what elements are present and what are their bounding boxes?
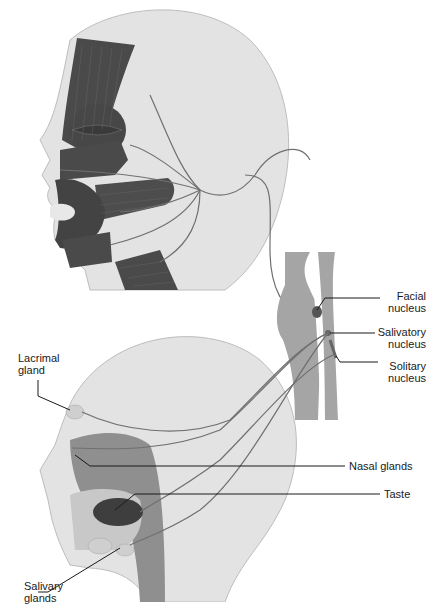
label-salivary-glands: Salivary glands [24,580,63,604]
tongue-taste-area [93,498,143,526]
label-line: nucleus [372,302,426,314]
label-lacrimal-gland: Lacrimal gland [18,352,60,376]
label-line: gland [18,364,60,376]
lower-head-sensory [40,333,333,602]
label-line: Salivary [24,580,63,592]
label-line: Facial [372,290,426,302]
label-taste: Taste [384,488,410,500]
submandibular-gland [88,538,112,554]
label-nasal-glands: Nasal glands [349,460,413,472]
label-line: Lacrimal [18,352,60,364]
label-line: Salivatory [360,326,426,338]
label-line: Solitary [370,360,426,372]
label-line: glands [24,592,63,604]
sublingual-gland [116,544,134,556]
label-salivatory-nucleus: Salivatory nucleus [360,326,426,350]
label-solitary-nucleus: Solitary nucleus [370,360,426,384]
label-facial-nucleus: Facial nucleus [372,290,426,314]
lacrimal-gland-shape [66,405,84,419]
label-line: nucleus [360,338,426,350]
facial-nucleus-marker [312,306,322,318]
label-line: nucleus [370,372,426,384]
